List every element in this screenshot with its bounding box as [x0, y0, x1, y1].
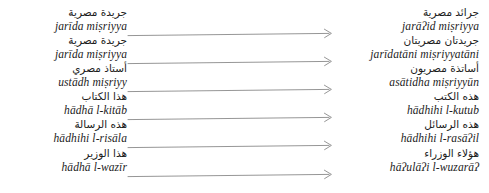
transformation-arrow-icon	[128, 169, 334, 180]
source-phrase: جريدة مصرية jarīda miṣriyya	[0, 6, 128, 34]
source-transliteration-text: jarīda miṣriyya	[0, 19, 127, 34]
source-transliteration-text: hādhā l-kitāb	[0, 103, 127, 118]
transformation-row: هذا الوزير hādhā l-wazīr هؤلاء الوزراء h…	[0, 147, 489, 175]
source-arabic-text: جريدة مصرية	[0, 34, 127, 47]
target-transliteration-text: asātidha miṣriyyūn	[337, 75, 479, 90]
source-phrase: هذه الرسالة hādhihi l-risāla	[0, 118, 128, 146]
target-phrase: هؤلاء الوزراء hāʔulāʔi l-wuzarāʔ	[337, 147, 489, 175]
source-phrase: أستاذ مصري ustādh miṣriyy	[0, 62, 128, 90]
source-arabic-text: هذا الوزير	[0, 147, 127, 160]
source-phrase: جريدة مصرية jarīda miṣriyya	[0, 34, 128, 62]
source-transliteration-text: jarīda miṣriyya	[0, 47, 127, 62]
source-transliteration-text: hādhā l-wazīr	[0, 160, 127, 175]
source-arabic-text: هذه الرسالة	[0, 118, 127, 131]
transformation-row: هذه الرسالة hādhihi l-risāla هذه الرسائل…	[0, 118, 489, 146]
target-phrase: أساتذة مصريون asātidha miṣriyyūn	[337, 62, 489, 90]
target-transliteration-text: jarīdatāni miṣriyyatāni	[337, 47, 479, 62]
target-transliteration-text: hādhihi l-kutub	[337, 103, 479, 118]
transformation-row: جريدة مصرية jarīda miṣriyya جريدتان مصري…	[0, 34, 489, 62]
transformation-figure: جريدة مصرية jarīda miṣriyya جرائد مصرية …	[0, 0, 489, 193]
source-transliteration-text: ustādh miṣriyy	[0, 75, 127, 90]
source-transliteration-text: hādhihi l-risāla	[0, 131, 127, 146]
target-phrase: جرائد مصرية jarāʔid miṣriyya	[337, 6, 489, 34]
source-phrase: هذا الكتاب hādhā l-kitāb	[0, 90, 128, 118]
source-arabic-text: هذا الكتاب	[0, 90, 127, 103]
transformation-row: أستاذ مصري ustādh miṣriyy أساتذة مصريون …	[0, 62, 489, 90]
target-phrase: هذه الكتب hādhihi l-kutub	[337, 90, 489, 118]
transformation-row: جريدة مصرية jarīda miṣriyya جرائد مصرية …	[0, 6, 489, 34]
source-phrase: هذا الوزير hādhā l-wazīr	[0, 147, 128, 175]
target-arabic-text: هذه الرسائل	[337, 118, 479, 131]
source-arabic-text: جريدة مصرية	[0, 6, 127, 19]
target-arabic-text: جريدتان مصريتان	[337, 34, 479, 47]
target-transliteration-text: jarāʔid miṣriyya	[337, 19, 479, 34]
target-arabic-text: هذه الكتب	[337, 90, 479, 103]
transformation-row: هذا الكتاب hādhā l-kitāb هذه الكتب hādhi…	[0, 90, 489, 118]
target-transliteration-text: hādhihi l-rasāʔil	[337, 131, 479, 146]
target-phrase: هذه الرسائل hādhihi l-rasāʔil	[337, 118, 489, 146]
target-arabic-text: جرائد مصرية	[337, 6, 479, 19]
target-arabic-text: هؤلاء الوزراء	[337, 147, 479, 160]
source-arabic-text: أستاذ مصري	[0, 62, 127, 75]
target-arabic-text: أساتذة مصريون	[337, 62, 479, 75]
target-transliteration-text: hāʔulāʔi l-wuzarāʔ	[337, 160, 479, 175]
target-phrase: جريدتان مصريتان jarīdatāni miṣriyyatāni	[337, 34, 489, 62]
